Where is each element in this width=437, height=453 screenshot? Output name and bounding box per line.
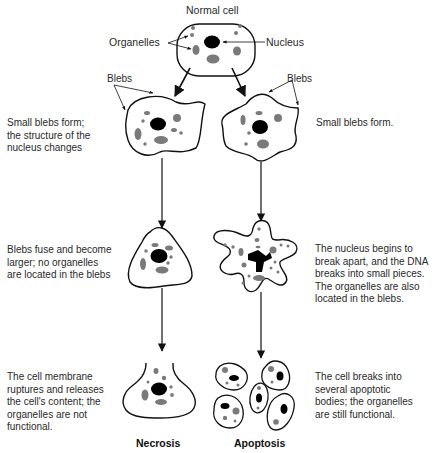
apoptotic-bodies bbox=[214, 361, 295, 430]
normal-cell-title: Normal cell bbox=[186, 4, 239, 17]
apoptosis-cell-step1 bbox=[222, 94, 298, 161]
necrosis-step3-description: The cell membrane ruptures and releases … bbox=[7, 371, 104, 434]
apoptosis-step3-description: The cell breaks into several apoptotic b… bbox=[315, 371, 413, 421]
necrosis-cell-step1 bbox=[126, 96, 205, 155]
nucleus-icon bbox=[204, 36, 220, 49]
apoptosis-title: Apoptosis bbox=[234, 437, 285, 449]
apoptosis-step1-description: Small blebs form. bbox=[316, 117, 393, 130]
apoptosis-cell-step2 bbox=[214, 221, 297, 292]
necrosis-cell-ruptured bbox=[123, 363, 195, 418]
apoptosis-step2-description: The nucleus begins to break apart, and t… bbox=[315, 243, 428, 306]
apoptotic-body-4 bbox=[214, 395, 244, 428]
necrosis-title: Necrosis bbox=[136, 437, 180, 449]
blebs-label-left: Blebs bbox=[107, 73, 132, 86]
apoptotic-body-5 bbox=[267, 394, 294, 430]
necrosis-step1-description: Small blebs form; the structure of the n… bbox=[7, 117, 90, 155]
organelles-label: Organelles bbox=[109, 36, 160, 49]
nucleus-label: Nucleus bbox=[266, 36, 304, 49]
necrosis-cell-step2 bbox=[128, 228, 192, 288]
apoptotic-body-3 bbox=[248, 382, 270, 414]
blebs-label-right: Blebs bbox=[287, 73, 312, 86]
necrosis-step2-description: Blebs fuse and become larger; no organel… bbox=[7, 244, 112, 282]
normal-cell bbox=[177, 24, 255, 76]
apoptotic-body-1 bbox=[216, 363, 248, 390]
